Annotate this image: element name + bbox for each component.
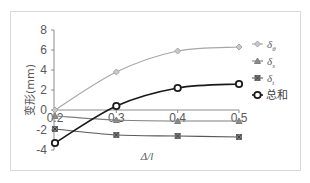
legend-item: δs [252,55,275,70]
y-axis-ticks: 86420-2-4 [36,23,54,157]
y-tick-label: 2 [40,83,47,97]
circle-marker-icon [52,140,58,146]
y-tick-label: 8 [40,23,47,37]
legend-label: δt [267,72,275,87]
x-axis-label: Δ/l [140,150,154,162]
x-square-marker-icon [175,134,180,139]
x-square-marker-icon [114,133,119,138]
legend-item: δt [252,72,275,87]
circle-marker-icon [254,92,260,98]
y-tick-label: 6 [40,43,47,57]
line-chart: 86420-2-4 0.20.30.40.5 变形(mm) Δ/l δθδsδt… [0,0,310,183]
series-line [55,129,239,137]
circle-marker-icon [236,81,242,87]
y-tick-label: -4 [36,143,47,157]
series-group [52,44,242,146]
x-square-marker-icon [53,127,58,132]
y-axis-label: 变形(mm) [23,64,37,116]
diamond-marker-icon [236,44,242,50]
legend-label: 总和 [266,88,288,102]
x-square-marker-icon [237,135,242,140]
series-2 [52,113,242,124]
circle-marker-icon [113,103,119,109]
legend-item: δθ [252,38,276,53]
x-square-marker-icon [255,76,260,81]
series-line [55,116,239,121]
circle-marker-icon [174,85,180,91]
diamond-marker-icon [113,69,119,75]
legend-item: 总和 [252,88,288,102]
legend-label: δs [267,55,275,70]
series-line [55,47,239,110]
y-tick-label: -2 [36,123,47,137]
y-tick-label: 4 [40,63,47,77]
series-1 [52,44,242,113]
diamond-marker-icon [175,48,181,54]
legend: δθδsδt总和 [252,38,288,102]
series-3 [53,127,242,140]
series-line [55,84,239,143]
legend-label: δθ [267,38,276,53]
diamond-marker-icon [255,41,261,47]
